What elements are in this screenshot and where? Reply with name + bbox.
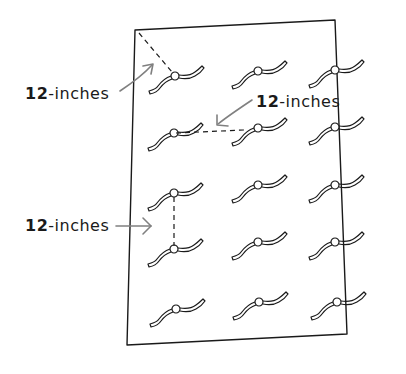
label-vertical-spacing: 12-inches: [25, 216, 109, 235]
sheet-outline: [127, 20, 347, 345]
label-horizontal-spacing: 12-inches: [256, 92, 340, 111]
label-corner-spacing: 12-inches: [25, 84, 109, 103]
diagram-canvas: [0, 0, 406, 374]
